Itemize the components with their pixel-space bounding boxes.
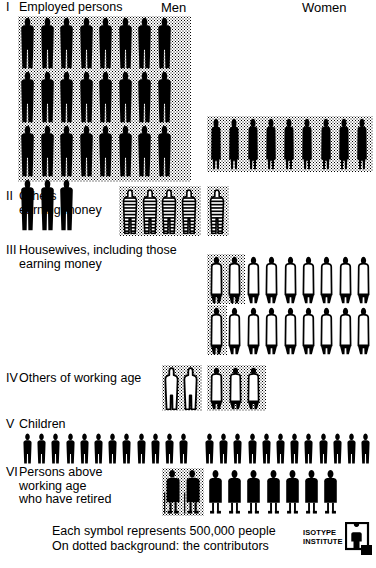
caption-line-1: Each symbol represents 500,000 people bbox=[52, 524, 276, 539]
pictogram-figure-child-boy bbox=[36, 433, 47, 464]
figure-group-children-men bbox=[22, 433, 190, 464]
pictogram-figure-child-girl bbox=[261, 433, 272, 464]
pictogram-figure-employed-man bbox=[97, 17, 114, 69]
pictogram-figure-housewife bbox=[318, 256, 335, 304]
figure-group-employed-women bbox=[208, 118, 372, 170]
isotype-institute-logo: ISOTYPE INSTITUTE bbox=[303, 522, 373, 564]
pictogram-figure-retired-woman bbox=[322, 469, 339, 514]
pictogram-figure-child-boy bbox=[150, 433, 161, 464]
pictogram-figure-retired-woman bbox=[226, 469, 243, 514]
caption-line-2: On dotted background: the contributors bbox=[52, 539, 269, 554]
pictogram-figure-housewife bbox=[263, 256, 280, 304]
pictogram-figure-child-girl bbox=[275, 433, 286, 464]
pictogram-figure-housewife bbox=[300, 256, 317, 304]
pictogram-figure-retired-woman bbox=[284, 469, 301, 514]
pictogram-figure-child-girl bbox=[332, 433, 343, 464]
pictogram-figure-child-boy bbox=[136, 433, 147, 464]
pictogram-figure-employed-man bbox=[78, 17, 95, 69]
pictogram-figure-other-working-age-man bbox=[163, 367, 180, 410]
pictogram-figure-housewife bbox=[208, 307, 225, 355]
figure-group-others-working-women bbox=[208, 367, 264, 410]
pictogram-figure-child-boy bbox=[22, 433, 33, 464]
row-numeral-5: V bbox=[6, 418, 14, 432]
pictogram-figure-child-girl bbox=[289, 433, 300, 464]
pictogram-figure-housewife bbox=[355, 256, 372, 304]
pictogram-figure-child-boy bbox=[107, 433, 118, 464]
pictogram-figure-employed-man bbox=[19, 17, 36, 69]
pictogram-figure-retired-woman bbox=[245, 469, 262, 514]
pictogram-figure-child-boy bbox=[164, 433, 175, 464]
pictogram-figure-retired-man bbox=[183, 469, 201, 514]
pictogram-figure-housewife bbox=[337, 307, 354, 355]
pictogram-figure-child-girl bbox=[360, 433, 371, 464]
pictogram-figure-other-working-age-woman bbox=[208, 367, 225, 410]
pictogram-figure-employed-man bbox=[39, 17, 56, 69]
pictogram-figure-employed-woman bbox=[245, 118, 261, 170]
pictogram-figure-employed-woman bbox=[263, 118, 279, 170]
pictogram-figure-child-girl bbox=[318, 433, 329, 464]
pictogram-figure-housewife bbox=[300, 307, 317, 355]
pictogram-figure-employed-woman bbox=[336, 118, 352, 170]
pictogram-figure-child-girl bbox=[247, 433, 258, 464]
row-numeral-3: III bbox=[6, 244, 16, 258]
pictogram-figure-employed-woman bbox=[299, 118, 315, 170]
pictogram-figure-housewife bbox=[282, 307, 299, 355]
pictogram-figure-retired-woman bbox=[303, 469, 320, 514]
row-label-others-earning-money: Others earning money bbox=[19, 190, 102, 217]
pictogram-figure-employed-man bbox=[156, 17, 173, 69]
figure-group-others-earning-women bbox=[208, 188, 227, 234]
pictogram-figure-employed-man bbox=[117, 71, 134, 123]
pictogram-figure-housewife bbox=[355, 307, 372, 355]
pictogram-figure-housewife bbox=[226, 256, 243, 304]
pictogram-figure-employed-man bbox=[97, 71, 114, 123]
isotype-pictogram-chart: Men Women I Employed persons II Others e… bbox=[0, 0, 376, 568]
pictogram-figure-employed-woman bbox=[208, 118, 224, 170]
figure-group-others-working-men bbox=[163, 367, 201, 410]
pictogram-figure-housewife bbox=[245, 307, 262, 355]
pictogram-figure-other-working-age-woman bbox=[227, 367, 244, 410]
pictogram-figure-child-girl bbox=[218, 433, 229, 464]
pictogram-figure-employed-woman bbox=[318, 118, 334, 170]
figure-group-children-women bbox=[204, 433, 372, 464]
pictogram-figure-employed-man bbox=[117, 17, 134, 69]
pictogram-figure-employed-man bbox=[117, 125, 134, 177]
figure-group-retired-men bbox=[163, 469, 203, 514]
pictogram-figure-other-working-age-man bbox=[182, 367, 199, 410]
row-numeral-1: I bbox=[6, 1, 9, 15]
pictogram-figure-employed-man bbox=[39, 71, 56, 123]
pictogram-figure-child-girl bbox=[303, 433, 314, 464]
pictogram-figure-housewife bbox=[337, 256, 354, 304]
pictogram-figure-other-earner-man bbox=[121, 188, 139, 234]
pictogram-figure-other-earner-man bbox=[160, 188, 178, 234]
pictogram-figure-employed-man bbox=[19, 71, 36, 123]
pictogram-figure-employed-man bbox=[97, 125, 114, 177]
pictogram-figure-housewife bbox=[318, 307, 335, 355]
pictogram-figure-child-boy bbox=[93, 433, 104, 464]
pictogram-figure-other-earner-man bbox=[141, 188, 159, 234]
pictogram-figure-child-boy bbox=[79, 433, 90, 464]
row-label-employed-persons: Employed persons bbox=[19, 1, 123, 15]
pictogram-figure-employed-woman bbox=[226, 118, 242, 170]
pictogram-figure-child-boy bbox=[50, 433, 61, 464]
pictogram-figure-housewife bbox=[263, 307, 280, 355]
pictogram-figure-child-girl bbox=[232, 433, 243, 464]
pictogram-figure-other-working-age-woman bbox=[245, 367, 262, 410]
column-header-women: Women bbox=[302, 1, 347, 15]
pictogram-figure-employed-woman bbox=[281, 118, 297, 170]
pictogram-figure-employed-man bbox=[156, 125, 173, 177]
row-numeral-4: IV bbox=[6, 372, 18, 386]
pictogram-figure-retired-man bbox=[163, 469, 181, 514]
pictogram-figure-employed-man bbox=[136, 17, 153, 69]
row-numeral-6: VI bbox=[6, 466, 18, 480]
logo-text-isotype: ISOTYPE bbox=[303, 528, 336, 537]
pictogram-figure-employed-man bbox=[78, 125, 95, 177]
pictogram-figure-retired-woman bbox=[265, 469, 282, 514]
pictogram-figure-employed-man bbox=[78, 71, 95, 123]
figure-group-retired-women bbox=[207, 469, 342, 514]
pictogram-figure-employed-man bbox=[39, 125, 56, 177]
logo-text-institute: INSTITUTE bbox=[303, 537, 343, 546]
pictogram-figure-employed-man bbox=[136, 125, 153, 177]
pictogram-figure-employed-man bbox=[58, 71, 75, 123]
pictogram-figure-housewife bbox=[226, 307, 243, 355]
row-label-housewives: Housewives, including those earning mone… bbox=[19, 244, 177, 271]
